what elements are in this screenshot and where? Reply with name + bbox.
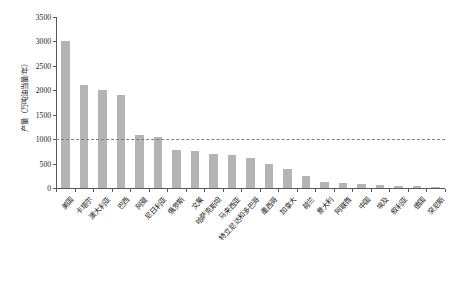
y-tick-label: 2000	[36, 86, 51, 95]
y-tick-label: 3500	[36, 13, 51, 22]
y-tick-label: 1000	[36, 135, 51, 144]
bar	[191, 151, 200, 188]
bar	[228, 155, 237, 188]
x-tick-mark	[445, 189, 446, 192]
x-tick-mark	[426, 189, 427, 192]
x-tick-mark	[167, 189, 168, 192]
x-tick-label: 俄罗斯	[165, 194, 186, 216]
bar	[61, 41, 70, 188]
x-tick-mark	[186, 189, 187, 192]
x-tick-label: 叙利亚	[388, 194, 409, 216]
x-tick-label: 中国	[355, 194, 372, 211]
bar	[357, 184, 366, 188]
y-tick-label: 2500	[36, 61, 51, 70]
x-tick-mark	[204, 189, 205, 192]
x-tick-label: 墨西哥	[258, 194, 279, 216]
x-axis-line	[56, 188, 445, 189]
bar	[376, 185, 385, 188]
x-tick-mark	[241, 189, 242, 192]
x-tick-mark	[389, 189, 390, 192]
bar	[413, 186, 422, 188]
y-tick-label: 3000	[36, 37, 51, 46]
bar	[135, 135, 144, 188]
bar	[394, 186, 403, 188]
y-tick-label: 0	[47, 184, 51, 193]
bar	[320, 182, 329, 188]
x-tick-mark	[334, 189, 335, 192]
x-tick-mark	[93, 189, 94, 192]
x-tick-mark	[149, 189, 150, 192]
x-tick-mark	[223, 189, 224, 192]
bar	[339, 183, 348, 188]
y-tick-label: 500	[40, 159, 51, 168]
x-tick-label: 意大利	[314, 194, 335, 216]
plot-area: 0500100015002000250030003500	[56, 17, 445, 189]
bar	[283, 169, 292, 188]
x-tick-mark	[56, 189, 57, 192]
x-tick-mark	[130, 189, 131, 192]
bar	[80, 85, 89, 188]
x-tick-label: 阿联酋	[332, 194, 353, 216]
y-tick-mark	[53, 17, 56, 18]
bar	[154, 137, 163, 188]
y-tick-mark	[53, 164, 56, 165]
x-tick-mark	[297, 189, 298, 192]
x-tick-label: 加拿大	[276, 194, 297, 216]
y-tick-mark	[53, 115, 56, 116]
x-tick-mark	[371, 189, 372, 192]
y-tick-mark	[53, 66, 56, 67]
x-tick-mark	[112, 189, 113, 192]
bar	[246, 158, 255, 188]
y-axis-line	[56, 17, 57, 189]
bar	[302, 176, 311, 188]
y-tick-mark	[53, 90, 56, 91]
y-tick-label: 1500	[36, 110, 51, 119]
x-tick-label: 突尼斯	[425, 194, 446, 216]
bar	[117, 95, 126, 188]
x-tick-mark	[408, 189, 409, 192]
x-tick-mark	[260, 189, 261, 192]
x-tick-label: 巴西	[114, 194, 131, 211]
bar	[265, 164, 274, 188]
bar	[172, 150, 181, 188]
x-tick-mark	[75, 189, 76, 192]
x-tick-mark	[278, 189, 279, 192]
reference-line	[56, 139, 445, 140]
x-tick-mark	[315, 189, 316, 192]
bar	[431, 187, 440, 188]
y-axis-title: 产量（万吨油当量/年）	[18, 0, 32, 196]
bar	[209, 154, 218, 188]
bar-chart: 产量（万吨油当量/年） 0500100015002000250030003500…	[0, 0, 458, 281]
y-tick-mark	[53, 41, 56, 42]
x-tick-mark	[352, 189, 353, 192]
